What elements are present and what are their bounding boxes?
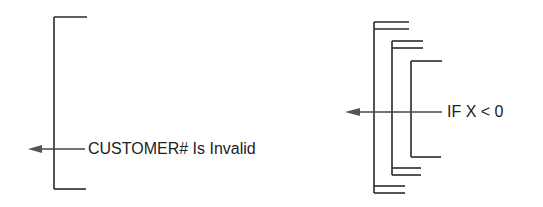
inner-bracket xyxy=(411,61,442,157)
left-arrow-icon xyxy=(28,145,85,153)
left-condition-label: CUSTOMER# Is Invalid xyxy=(88,141,256,157)
right-arrow-icon xyxy=(345,108,442,116)
left-bracket xyxy=(54,17,87,189)
right-condition-label: IF X < 0 xyxy=(447,104,503,120)
